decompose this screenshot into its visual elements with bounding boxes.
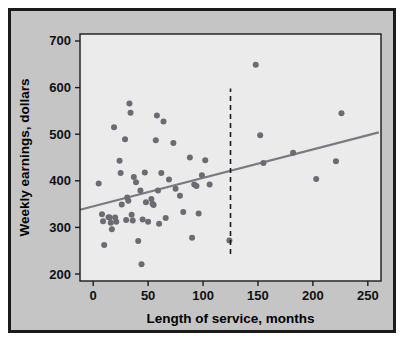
data-point: [156, 221, 162, 227]
y-axis-ticks: 200300400500600700: [49, 33, 80, 281]
y-tick-label: 500: [49, 127, 71, 142]
data-point: [333, 158, 339, 164]
data-point: [173, 186, 179, 192]
data-point: [99, 211, 105, 217]
data-point: [290, 150, 296, 156]
data-point: [153, 137, 159, 143]
data-point: [139, 261, 145, 267]
data-point: [128, 110, 134, 116]
data-point: [193, 183, 199, 189]
data-point: [151, 202, 157, 208]
figure-panel: 050100150200250 200300400500600700 Lengt…: [8, 8, 396, 333]
data-point: [163, 215, 169, 221]
data-point: [126, 100, 132, 106]
y-tick-label: 700: [49, 33, 71, 48]
x-axis-title: Length of service, months: [146, 311, 314, 326]
data-point: [101, 242, 107, 248]
data-point: [154, 113, 160, 119]
data-point: [123, 217, 129, 223]
data-point: [202, 157, 208, 163]
data-point: [170, 140, 176, 146]
data-point: [207, 182, 213, 188]
data-point: [133, 179, 139, 185]
x-tick-label: 250: [357, 288, 379, 303]
data-point: [253, 62, 259, 68]
data-point: [180, 209, 186, 215]
y-tick-label: 600: [49, 80, 71, 95]
x-tick-label: 50: [141, 288, 155, 303]
x-tick-label: 200: [302, 288, 324, 303]
data-point: [125, 198, 131, 204]
data-point: [257, 132, 263, 138]
data-point: [117, 158, 123, 164]
data-point: [118, 170, 124, 176]
data-point: [260, 160, 266, 166]
data-point: [160, 119, 166, 125]
data-point: [338, 110, 344, 116]
data-point: [177, 193, 183, 199]
data-point: [143, 199, 149, 205]
data-point: [313, 176, 319, 182]
y-tick-label: 200: [49, 267, 71, 282]
x-axis-ticks: 050100150200250: [90, 281, 379, 303]
data-point: [113, 219, 119, 225]
data-point: [158, 170, 164, 176]
x-tick-label: 100: [192, 288, 214, 303]
data-point: [142, 169, 148, 175]
data-point: [137, 188, 143, 194]
scatter-plot: 050100150200250 200300400500600700 Lengt…: [11, 11, 393, 330]
data-point: [129, 212, 135, 218]
data-point: [111, 124, 117, 130]
data-point: [135, 238, 141, 244]
data-point: [119, 202, 125, 208]
data-point: [187, 155, 193, 161]
y-tick-label: 400: [49, 173, 71, 188]
data-point: [109, 226, 115, 232]
data-point: [196, 210, 202, 216]
data-point: [145, 219, 151, 225]
data-point: [122, 136, 128, 142]
data-point: [108, 220, 114, 226]
data-point: [100, 218, 106, 224]
x-tick-label: 0: [90, 288, 97, 303]
data-point: [226, 237, 232, 243]
data-point: [189, 235, 195, 241]
data-point: [140, 216, 146, 222]
data-point: [131, 174, 137, 180]
data-point: [130, 217, 136, 223]
data-point: [199, 172, 205, 178]
data-point: [166, 176, 172, 182]
x-tick-label: 150: [247, 288, 269, 303]
y-tick-label: 300: [49, 220, 71, 235]
y-axis-title: Weekly earnings, dollars: [17, 78, 32, 236]
data-point: [155, 188, 161, 194]
data-point: [96, 181, 102, 187]
data-point: [107, 215, 113, 221]
